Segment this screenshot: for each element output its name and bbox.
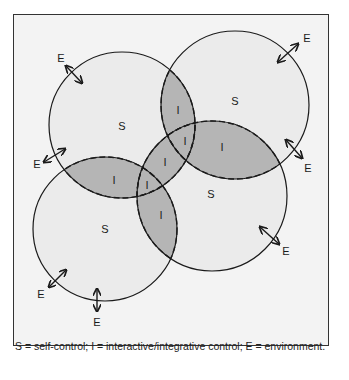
label-i-cd: I (159, 209, 162, 221)
label-e-4: E (304, 162, 311, 174)
label-e-2: E (33, 158, 40, 170)
label-i-ab: I (176, 104, 179, 116)
label-e-5: E (282, 245, 289, 257)
label-i-abd: I (183, 135, 186, 147)
label-e-3: E (303, 32, 310, 44)
label-s-top-left: S (118, 120, 125, 132)
label-i-acd: I (145, 179, 148, 191)
label-e-1: E (57, 52, 64, 64)
label-s-bottom-right: S (207, 188, 214, 200)
legend-caption: S = self-control; I = interactive/integr… (15, 340, 325, 352)
label-i-ac: I (112, 174, 115, 186)
label-e-7: E (93, 316, 100, 328)
label-e-6: E (37, 288, 44, 300)
label-i-bd: I (220, 141, 223, 153)
label-i-ad: I (163, 156, 166, 168)
label-s-bottom-left: S (101, 223, 108, 235)
venn-diagram: S S S S I I I I I I I E E E E E E E (0, 0, 349, 380)
label-s-top-right: S (231, 95, 238, 107)
